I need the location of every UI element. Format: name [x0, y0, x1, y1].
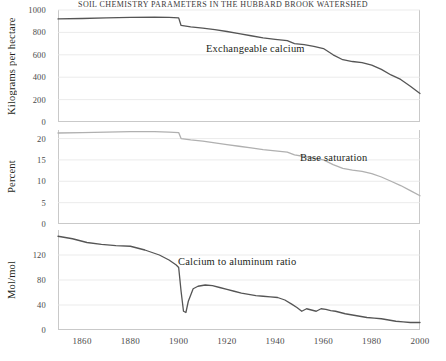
panel-1-plot [58, 10, 420, 122]
x-tick-label: 1980 [362, 336, 381, 346]
panel-2-plot [58, 130, 420, 224]
panel-calcium-aluminum-ratio [58, 230, 420, 330]
panel-1-y-axis-label: Kilograms per hectare [6, 10, 17, 122]
y-tick-label: 20 [37, 134, 52, 144]
series-line [58, 17, 420, 93]
y-tick-label: 0 [42, 219, 52, 229]
y-tick-label: 15 [37, 155, 52, 165]
y-tick-label: 5 [42, 198, 52, 208]
x-tick-label: 1940 [266, 336, 285, 346]
x-tick-label: 1860 [73, 336, 92, 346]
series-line [58, 132, 420, 196]
y-tick-label: 200 [33, 95, 52, 105]
series-line [58, 236, 420, 322]
x-tick-label: 1920 [217, 336, 236, 346]
panel-2-y-axis-label: Percent [6, 130, 17, 224]
y-tick-label: 400 [33, 72, 52, 82]
figure-title: soil chemistry parameters in the Hubbard… [0, 0, 446, 10]
x-tick-label: 1960 [314, 336, 333, 346]
series-label-calcium-aluminum-ratio: Calcium to aluminum ratio [178, 256, 296, 267]
y-tick-label: 1000 [28, 5, 52, 15]
series-label-base-saturation: Base saturation [300, 152, 367, 163]
y-tick-label: 40 [37, 300, 52, 310]
x-tick-label: 2000 [410, 336, 429, 346]
figure-root: soil chemistry parameters in the Hubbard… [0, 0, 446, 361]
panel-3-y-axis-label: Mol/mol [6, 230, 17, 330]
x-tick-label: 1900 [169, 336, 188, 346]
panel-exchangeable-calcium [58, 10, 420, 122]
y-tick-label: 0 [42, 117, 52, 127]
y-tick-label: 10 [37, 176, 52, 186]
series-label-exchangeable-calcium: Exchangeable calcium [206, 43, 305, 54]
y-tick-label: 120 [33, 250, 52, 260]
y-tick-label: 800 [33, 27, 52, 37]
y-tick-label: 0 [42, 325, 52, 335]
x-tick-label: 1880 [121, 336, 140, 346]
panel-3-plot [58, 230, 420, 330]
y-tick-label: 600 [33, 50, 52, 60]
panel-base-saturation [58, 130, 420, 224]
y-tick-label: 80 [37, 275, 52, 285]
